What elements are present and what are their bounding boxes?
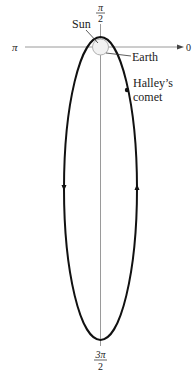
axis-label-pi-over-2-numerator: π: [98, 2, 104, 13]
orbit-direction-up-arrow-icon: [135, 184, 140, 190]
axis-label-zero: 0: [186, 42, 191, 53]
sun-label: Sun: [72, 17, 91, 31]
axis-arrow-icon: [177, 45, 184, 50]
earth-label: Earth: [132, 50, 158, 64]
comet-label-line1: Halley’s: [133, 76, 173, 90]
polar-diagram: π 0 π 2 3π 2 Sun Earth Halley’s comet: [0, 0, 194, 378]
orbit-direction-down-arrow-icon: [62, 185, 67, 191]
comet-label-line2: comet: [133, 90, 163, 104]
axis-label-pi: π: [12, 41, 18, 53]
axis-label-3pi-over-2-numerator: 3π: [94, 349, 106, 360]
axis-label-3pi-over-2-denominator: 2: [98, 361, 103, 372]
earth-orbit-circle: [93, 39, 109, 55]
axis-label-pi-over-2-denominator: 2: [98, 13, 103, 24]
comet-position-dot: [125, 88, 129, 92]
